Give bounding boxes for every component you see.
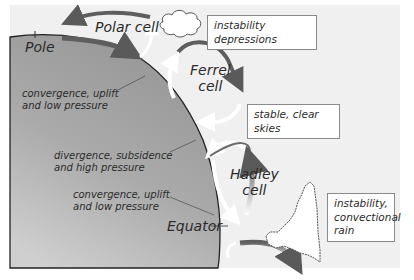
pole-label: Pole: [25, 39, 55, 55]
zone3-line2: and low pressure: [73, 201, 170, 213]
zone3-label: convergence, uplift and low pressure: [73, 189, 170, 212]
zone1-line2: and low pressure: [22, 100, 119, 112]
convectional-line1: instability,: [334, 197, 388, 211]
convectional-line3: rain: [334, 224, 388, 238]
zone1-label: convergence, uplift and low pressure: [22, 88, 119, 111]
convectional-rain-callout: instability, convectional rain: [327, 193, 395, 242]
hadley-label-line2: cell: [230, 182, 279, 198]
ferrel-cell-label: Ferrel cell: [190, 62, 231, 94]
ferrel-label-line1: Ferrel: [190, 62, 231, 78]
zone1-line1: convergence, uplift: [22, 88, 119, 100]
cloud-icon: [160, 10, 201, 37]
equator-label: Equator: [167, 218, 222, 234]
zone2-line2: and high pressure: [54, 162, 173, 174]
convectional-line2: convectional: [334, 211, 388, 225]
zone2-line1: divergence, subsidence: [54, 150, 173, 162]
atmospheric-circulation-diagram: Polar cell Ferrel cell Hadley cell Pole …: [0, 0, 414, 280]
ferrel-label-line2: cell: [190, 78, 231, 94]
hadley-label-line1: Hadley: [230, 166, 279, 182]
hadley-cell-label: Hadley cell: [230, 166, 279, 198]
instability-depressions-callout: instability depressions: [207, 15, 317, 50]
polar-cell-label: Polar cell: [95, 19, 159, 35]
stable-clear-skies-callout: stable, clear skies: [247, 104, 340, 139]
zone2-label: divergence, subsidence and high pressure: [54, 150, 173, 173]
zone3-line1: convergence, uplift: [73, 189, 170, 201]
